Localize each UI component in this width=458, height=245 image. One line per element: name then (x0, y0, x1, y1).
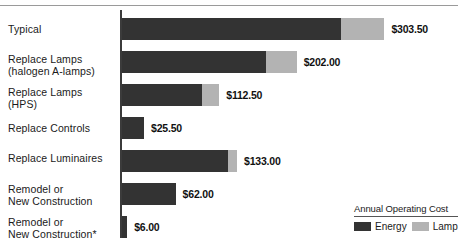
category-label-line1: Typical (8, 24, 118, 36)
bar-segment-energy (122, 183, 176, 205)
chart-legend: Annual Operating Cost Energy Lamp (354, 203, 458, 232)
category-label-line2: (HPS) (8, 99, 118, 111)
bar-row (122, 84, 219, 106)
category-label-line1: Replace Lamps (8, 54, 118, 66)
category-label: Typical (8, 24, 118, 36)
bar-segment-lamp (266, 51, 297, 73)
bar-row (122, 18, 384, 40)
legend-label-energy: Energy (375, 221, 407, 232)
bar-value-label: $25.50 (151, 122, 182, 134)
legend-entry-energy: Energy (354, 221, 407, 232)
category-label-line1: Remodel or (8, 217, 118, 229)
top-divider-rule (0, 5, 458, 6)
category-label-line1: Remodel or (8, 184, 118, 196)
bar-value-label: $202.00 (304, 56, 341, 68)
bar-value-label: $303.50 (391, 23, 428, 35)
category-label-line2: New Construction (8, 196, 118, 208)
bar-row (122, 150, 237, 172)
category-label-line1: Replace Luminaires (8, 153, 118, 165)
bar-segment-lamp (202, 84, 219, 106)
bar-segment-energy (122, 18, 341, 40)
category-label-line1: Replace Controls (8, 123, 118, 135)
category-label: Remodel orNew Construction* (8, 217, 118, 240)
bar-row (122, 51, 297, 73)
category-label: Replace Luminaires (8, 153, 118, 165)
bar-row (122, 216, 127, 238)
bar-row (122, 183, 176, 205)
category-label: Replace Lamps(HPS) (8, 87, 118, 110)
category-label-line1: Replace Lamps (8, 87, 118, 99)
legend-entry-lamp: Lamp (412, 221, 458, 232)
bar-segment-energy (122, 51, 266, 73)
category-label-line2: (halogen A-lamps) (8, 66, 118, 78)
bar-value-label: $6.00 (134, 221, 159, 233)
bar-value-label: $112.50 (226, 89, 262, 101)
category-label: Remodel orNew Construction (8, 184, 118, 207)
bar-value-label: $133.00 (244, 155, 281, 167)
category-label: Replace Lamps(halogen A-lamps) (8, 54, 118, 77)
bar-segment-lamp (341, 18, 384, 40)
legend-label-lamp: Lamp (433, 221, 458, 232)
bar-segment-energy (122, 216, 127, 238)
bar-segment-energy (122, 150, 228, 172)
bar-value-label: $62.00 (183, 188, 214, 200)
category-label-line2: New Construction* (8, 229, 118, 241)
legend-entries: Energy Lamp (354, 221, 458, 232)
category-label: Replace Controls (8, 123, 118, 135)
bar-segment-energy (122, 117, 144, 139)
bar-segment-lamp (228, 150, 237, 172)
legend-swatch-lamp-icon (412, 222, 429, 231)
legend-title: Annual Operating Cost (354, 203, 458, 217)
bar-segment-energy (122, 84, 202, 106)
bar-row (122, 117, 144, 139)
legend-swatch-energy-icon (354, 222, 371, 231)
